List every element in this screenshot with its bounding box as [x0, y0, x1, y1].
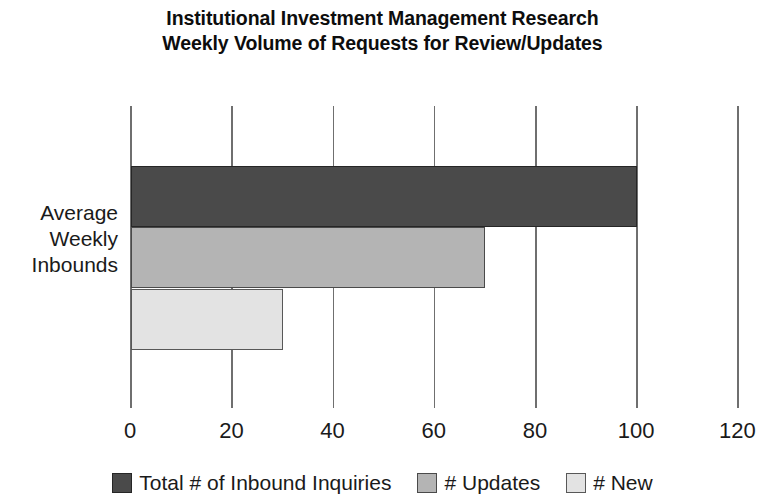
- y-axis-label-line-2: Weekly: [0, 226, 118, 252]
- y-axis-label-line-3: Inbounds: [0, 252, 118, 278]
- x-tick-label-60: 60: [399, 418, 469, 444]
- y-axis-label: Average Weekly Inbounds: [0, 200, 118, 278]
- legend-label-updates: # Updates: [444, 471, 540, 495]
- legend-swatch-icon-total: [112, 473, 132, 493]
- x-tick-label-120: 120: [702, 418, 765, 444]
- x-tick-label-100: 100: [601, 418, 671, 444]
- legend-swatch-icon-updates: [417, 473, 437, 493]
- chart-plot-area: Average Weekly Inbounds 0 20 40 60 80 10…: [0, 0, 765, 500]
- bar-new: [131, 289, 283, 350]
- gridline-120: [737, 106, 739, 408]
- gridline-100: [636, 106, 638, 408]
- x-tick-label-40: 40: [298, 418, 368, 444]
- x-tick-label-0: 0: [95, 418, 165, 444]
- x-tick-label-20: 20: [196, 418, 266, 444]
- bar-updates: [131, 227, 485, 288]
- y-axis-label-line-1: Average: [0, 200, 118, 226]
- legend-item-new: # New: [566, 471, 653, 495]
- legend-label-total: Total # of Inbound Inquiries: [139, 471, 391, 495]
- gridline-80: [535, 106, 537, 408]
- x-tick-label-80: 80: [500, 418, 570, 444]
- legend-label-new: # New: [593, 471, 653, 495]
- legend-item-total-inbound-inquiries: Total # of Inbound Inquiries: [112, 471, 391, 495]
- chart-legend: Total # of Inbound Inquiries # Updates #…: [0, 466, 765, 500]
- legend-swatch-icon-new: [566, 473, 586, 493]
- legend-item-updates: # Updates: [417, 471, 540, 495]
- bar-total-inbound-inquiries: [131, 166, 637, 227]
